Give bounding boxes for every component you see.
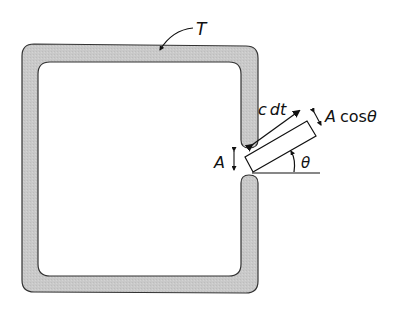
projected-area-label: Acosθ: [324, 107, 377, 126]
cdt-label: cdt: [258, 100, 287, 119]
temperature-label: T: [196, 19, 208, 39]
hole-area-label: A: [213, 153, 225, 172]
angle-arc: [291, 151, 295, 172]
cavity-diagram: T cdt Acosθ A θ: [0, 0, 409, 313]
angle-label: θ: [301, 154, 310, 172]
acos-arrow: [314, 112, 321, 125]
